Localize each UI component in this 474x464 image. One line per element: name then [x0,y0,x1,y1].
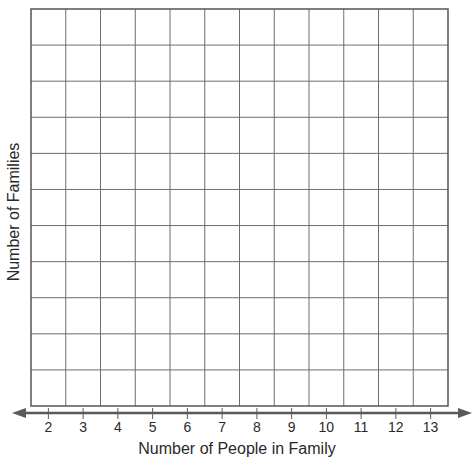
grid-lines [31,9,448,406]
blank-graph-grid: 2345678910111213 [0,0,474,464]
x-tick-label: 13 [423,419,439,435]
x-tick-label: 11 [354,419,369,435]
x-tick-label: 6 [183,419,191,435]
y-axis-label: Number of Families [5,143,23,282]
x-tick-label: 12 [388,419,404,435]
x-tick-label: 8 [253,419,261,435]
x-tick-label: 3 [79,419,87,435]
x-tick-label: 2 [44,419,52,435]
x-tick-label: 4 [114,419,122,435]
x-tick-label: 9 [288,419,296,435]
x-axis-label: Number of People in Family [0,440,474,458]
x-axis-tick-labels: 2345678910111213 [44,419,438,435]
x-tick-label: 7 [218,419,226,435]
right-arrow-icon [458,408,472,418]
x-tick-label: 5 [149,419,157,435]
left-arrow-icon [12,408,26,418]
x-tick-label: 10 [319,419,335,435]
x-axis [12,408,472,418]
